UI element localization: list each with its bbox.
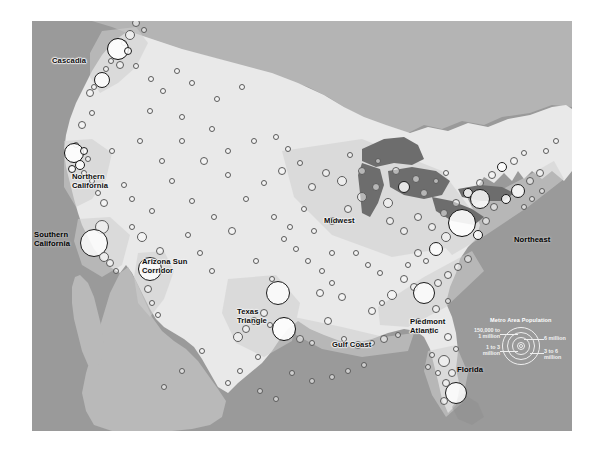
metro-circle (257, 388, 263, 394)
metro-circle (423, 258, 429, 264)
legend-leader-2 (500, 351, 518, 352)
metro-circle (432, 305, 440, 313)
legend-label-tier-3: 6 million (544, 335, 566, 341)
metro-circle (476, 179, 484, 187)
metro-circle (341, 336, 347, 342)
metro-circle (368, 307, 376, 315)
metro-circle (121, 182, 127, 188)
metro-circle (488, 171, 496, 179)
metro-circle (414, 213, 422, 221)
metro-circle (464, 255, 472, 263)
metro-circle (106, 259, 114, 267)
metro-circle (309, 378, 315, 384)
metro-circle (209, 268, 215, 274)
metro-circle (144, 285, 152, 293)
metro-circle (125, 30, 135, 40)
metro-circle (296, 335, 304, 343)
metro-circle (281, 236, 287, 242)
metro-circle (251, 138, 257, 144)
metro-circle (301, 206, 307, 212)
metro-circle (159, 158, 165, 164)
metro-circle (197, 250, 203, 256)
metro-circle (429, 242, 443, 256)
metro-circle (440, 209, 448, 217)
metro-circle (289, 370, 295, 376)
metro-circle (116, 61, 124, 69)
metro-circle (445, 382, 467, 404)
metro-circle (412, 175, 420, 183)
metro-circle (200, 157, 208, 165)
metro-circle (137, 138, 143, 144)
metro-circle (501, 194, 511, 204)
metro-circle (444, 333, 452, 341)
metro-circle (536, 169, 544, 177)
metro-circle (440, 397, 448, 405)
metro-circle (441, 232, 451, 242)
metro-circle (377, 270, 383, 276)
metro-circle (155, 312, 161, 318)
metro-circle (433, 178, 439, 184)
metro-circle (75, 160, 85, 170)
metro-circle (345, 368, 351, 374)
map-legend: Metro Area Population 150,000 to 1 milli… (464, 317, 572, 379)
metro-circle (179, 368, 185, 374)
metro-circle (322, 169, 330, 177)
metro-circle (287, 224, 293, 230)
metro-circle (293, 246, 299, 252)
metro-circle (319, 268, 325, 274)
us-megaregions-map: CascadiaNorthern CaliforniaSouthern Cali… (32, 21, 572, 431)
metro-circle (233, 332, 243, 342)
metro-circle (357, 192, 367, 202)
metro-circle (413, 282, 435, 304)
metro-circle (329, 250, 335, 256)
metro-circle (179, 114, 185, 120)
metro-circle (129, 196, 135, 202)
legend-ring-core (519, 344, 523, 348)
metro-circle (239, 84, 245, 90)
metro-circle (156, 247, 164, 255)
metro-circle (400, 227, 408, 235)
metro-circle (68, 165, 76, 173)
metro-circle (89, 110, 95, 116)
metro-circle (454, 263, 462, 271)
metro-circle (81, 170, 87, 176)
metro-circle (86, 89, 94, 97)
metro-circle (445, 298, 451, 304)
metro-circle (225, 380, 231, 386)
metro-circle (443, 170, 449, 176)
metro-circle (316, 289, 324, 297)
metro-circle (273, 134, 279, 140)
metro-circle (225, 148, 231, 154)
metro-circle (179, 138, 185, 144)
metro-circle (141, 27, 147, 33)
metro-circle (103, 66, 109, 72)
metro-circle (353, 250, 359, 256)
metro-circle (429, 352, 435, 358)
metro-circle (543, 148, 549, 154)
metro-circle (337, 176, 347, 186)
metro-circle (435, 370, 441, 376)
legend-leader-4 (530, 353, 544, 354)
metro-circle (147, 108, 153, 114)
legend-ring-graphic (502, 327, 540, 365)
metro-circle (510, 157, 518, 165)
metro-circle (272, 317, 296, 341)
metro-circle (253, 258, 259, 264)
metro-circle (415, 318, 421, 324)
metro-circle (138, 257, 162, 281)
metro-circle (398, 181, 410, 193)
metro-circle (427, 328, 433, 334)
metro-circle (95, 190, 101, 196)
metro-circle (497, 162, 507, 172)
metro-circle (358, 167, 366, 175)
metro-circle (242, 325, 250, 333)
metro-circle (414, 249, 422, 257)
metro-circle (161, 384, 167, 390)
metro-circle (473, 230, 483, 240)
metro-circle (395, 332, 401, 338)
metro-circle (129, 224, 135, 230)
baja-peninsula (72, 275, 104, 369)
metro-circle (273, 396, 279, 402)
metro-circle (553, 138, 559, 144)
metro-circle (266, 281, 290, 305)
